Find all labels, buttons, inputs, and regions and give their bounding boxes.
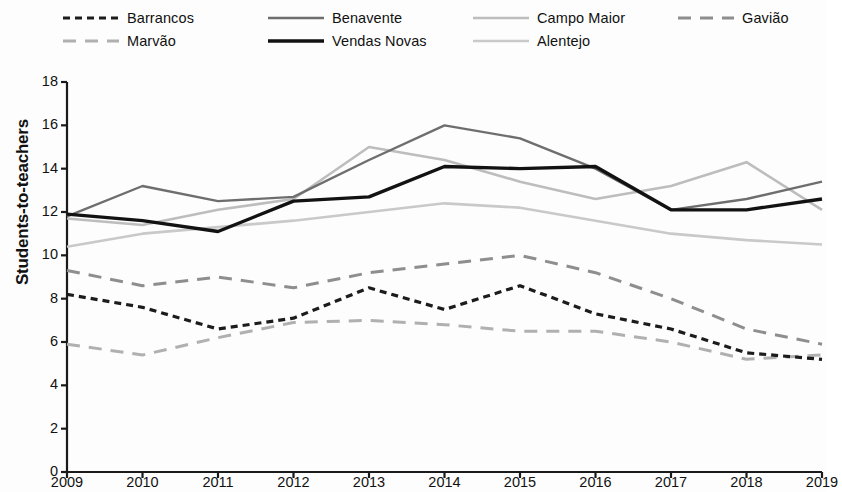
series-line-vendas-novas <box>67 167 822 232</box>
series-line-gavião <box>67 255 822 344</box>
series-line-barrancos <box>67 286 822 360</box>
series-line-marvão <box>67 320 822 359</box>
series-line-campo-maior <box>67 147 822 225</box>
